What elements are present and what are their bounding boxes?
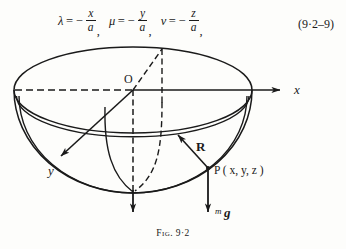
- figure-caption-prefix: Fig.: [156, 228, 173, 238]
- equation-block: λ = − x a , μ = − y a ,: [0, 8, 346, 46]
- point-p-label: P ( x, y, z ): [214, 164, 264, 177]
- lambda-symbol: λ: [58, 14, 64, 29]
- fraction-numerator-z: z: [189, 8, 198, 21]
- fraction-y-over-a: y a: [138, 8, 148, 34]
- fraction-denominator-a-2: a: [138, 21, 148, 34]
- nu-symbol: ν: [161, 14, 167, 29]
- equation-expression: λ = − x a , μ = − y a ,: [58, 8, 203, 34]
- equals-sign-2: =: [118, 14, 125, 29]
- equation-number: (9·2–9): [298, 17, 334, 32]
- y-axis-line: [61, 90, 133, 156]
- minus-sign-3: −: [179, 14, 186, 29]
- fraction-z-over-a: z a: [189, 8, 199, 34]
- fraction-denominator-a-1: a: [86, 21, 96, 34]
- fraction-numerator-x: x: [86, 8, 95, 21]
- z-axis-label: z: [127, 218, 133, 224]
- fraction-numerator-y: y: [138, 8, 147, 21]
- front-meridian-curve: [105, 107, 133, 192]
- weight-gravity-label: g: [223, 205, 231, 220]
- equation-term-nu: ν = − z a ,: [161, 8, 203, 34]
- fraction-x-over-a: x a: [86, 8, 96, 34]
- figure-caption-number: 9·2: [176, 228, 190, 238]
- mu-symbol: μ: [109, 14, 115, 29]
- dashed-back-meridian: [135, 102, 162, 191]
- comma-3: ,: [200, 24, 203, 39]
- comma-1: ,: [97, 24, 100, 39]
- minus-sign-1: −: [76, 14, 83, 29]
- reaction-force-label: R: [196, 139, 206, 154]
- origin-label: O: [124, 72, 133, 86]
- figure-diagram: x y z O R P ( x, y, z ) m g: [0, 44, 346, 224]
- fraction-denominator-a-3: a: [189, 21, 199, 34]
- comma-2: ,: [148, 24, 151, 39]
- equation-term-mu: μ = − y a ,: [109, 8, 161, 34]
- equals-sign-3: =: [169, 14, 176, 29]
- dashed-radius-to-rim: [133, 49, 162, 90]
- equals-sign-1: =: [66, 14, 73, 29]
- equation-term-lambda: λ = − x a ,: [58, 8, 109, 34]
- x-axis-label: x: [293, 82, 300, 97]
- minus-sign-2: −: [127, 14, 134, 29]
- weight-mass-label: m: [215, 206, 222, 216]
- figure-caption: Fig. 9·2: [0, 228, 346, 238]
- y-axis-label: y: [46, 163, 54, 178]
- page-root: λ = − x a , μ = − y a ,: [0, 0, 346, 249]
